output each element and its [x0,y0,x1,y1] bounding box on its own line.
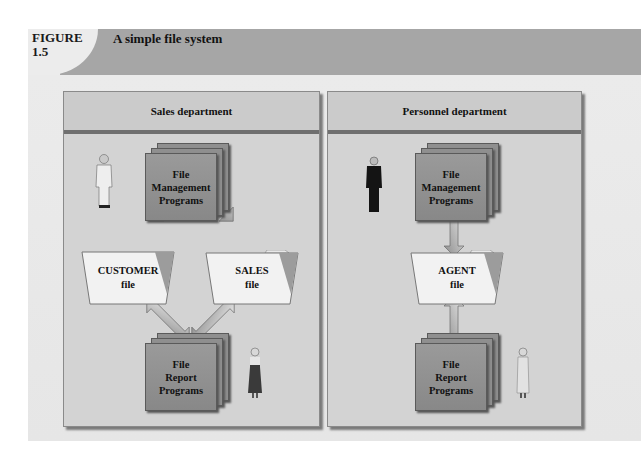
card-text-line1: File [152,168,211,181]
man-in-dark-suit-icon [365,156,383,214]
card-text-line3: Programs [159,384,203,397]
card-text-line2: Report [429,371,473,384]
card-text-line2: Management [152,181,211,194]
sales-file-report-programs: File Report Programs [145,333,235,413]
man-in-light-suit-icon [93,153,115,209]
folder-type: file [438,278,475,292]
card-text-line1: File [159,358,203,371]
sales-file-folder: SALES file [205,250,299,306]
woman-in-light-dress-icon [515,347,531,399]
arrows-layer [0,0,641,449]
card-text-line2: Report [159,371,203,384]
personnel-file-management-programs: File Management Programs [415,143,505,223]
folder-name: AGENT [438,264,475,278]
folder-name: SALES [235,264,268,278]
agent-file-folder: AGENT file [410,250,504,306]
customer-file-folder: CUSTOMER file [81,250,175,306]
sales-file-management-programs: File Management Programs [145,143,235,223]
program-card-front: File Report Programs [145,343,217,411]
folder-type: file [235,278,268,292]
folder-type: file [98,278,158,292]
card-text-line1: File [429,358,473,371]
folder-name: CUSTOMER [98,264,158,278]
program-card-front: File Management Programs [145,153,217,221]
card-text-line1: File [422,168,481,181]
program-card-front: File Report Programs [415,343,487,411]
personnel-file-report-programs: File Report Programs [415,333,505,413]
woman-in-dark-dress-icon [247,347,263,399]
card-text-line2: Management [422,181,481,194]
program-card-front: File Management Programs [415,153,487,221]
card-text-line3: Programs [152,194,211,207]
card-text-line3: Programs [429,384,473,397]
card-text-line3: Programs [422,194,481,207]
